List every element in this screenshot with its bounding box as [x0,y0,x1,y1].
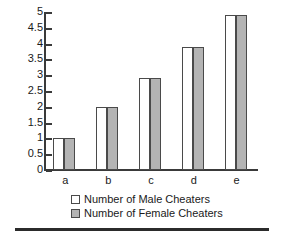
chart-legend: Number of Male Cheaters Number of Female… [0,192,283,220]
bar-female [107,107,118,170]
x-tick-label: b [93,174,123,187]
bar-group [93,12,123,170]
bar-male [139,78,150,170]
y-tick-label: 4.5 [28,21,43,33]
legend-item-female: Number of Female Cheaters [0,206,283,220]
y-tick-mark [46,170,52,172]
y-tick-label: 4 [37,37,43,49]
bar-male [53,138,64,170]
x-tick-label: a [50,174,80,187]
bar-female [64,138,75,170]
bar-female [193,47,204,170]
x-tick-label: d [179,174,209,187]
legend-label-female: Number of Female Cheaters [84,207,223,220]
bar-group [179,12,209,170]
y-tick-label: 0.5 [28,147,43,159]
y-tick-label: 2 [37,100,43,112]
x-tick-label: e [222,174,252,187]
bar-male [182,47,193,170]
bar-female [236,15,247,170]
bar-group [136,12,166,170]
y-tick-label: 1 [37,131,43,143]
bar-male [225,15,236,170]
legend-swatch-male-icon [71,195,80,204]
y-tick-label: 3 [37,68,43,80]
bar-male [96,107,107,170]
y-tick-label: 2.5 [28,84,43,96]
bar-chart-figure: 00.511.522.533.544.55 abcde Number of Ma… [0,0,283,243]
y-tick-label: 5 [37,5,43,17]
plot-area: 00.511.522.533.544.55 abcde [0,0,283,190]
legend-item-male: Number of Male Cheaters [0,192,283,206]
y-tick-label: 3.5 [28,52,43,64]
bottom-divider [15,228,269,231]
bar-female [150,78,161,170]
y-tick-label: 1.5 [28,116,43,128]
x-tick-label: c [136,174,166,187]
legend-label-male: Number of Male Cheaters [84,193,210,206]
bars-layer [44,12,258,170]
bar-group [50,12,80,170]
legend-swatch-female-icon [71,209,80,218]
y-tick-label: 0 [37,163,43,175]
bar-group [222,12,252,170]
